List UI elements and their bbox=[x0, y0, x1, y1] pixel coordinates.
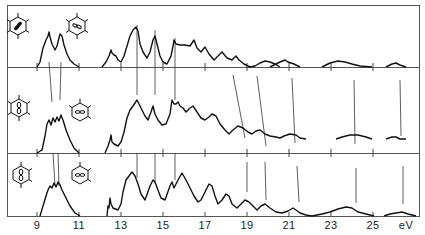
x-tick-label: 23 bbox=[324, 219, 337, 231]
x-tick-label: 9 bbox=[34, 219, 41, 231]
x-axis-unit-label: eV bbox=[399, 219, 413, 231]
x-tick-label: 11 bbox=[73, 219, 85, 231]
spectrum-bottom bbox=[40, 172, 416, 216]
spectrum-top bbox=[37, 27, 406, 67]
x-tick-label: 15 bbox=[156, 219, 169, 231]
benzene-diagonal-orbital-icon bbox=[7, 13, 29, 39]
x-tick-label: 17 bbox=[198, 219, 211, 231]
benzene-horizontal-orbital-icon bbox=[69, 99, 91, 121]
x-tick-label: 13 bbox=[114, 219, 127, 231]
benzene-horizontal-orbital-icon bbox=[72, 162, 91, 184]
benzene-vertical-orbital-icon bbox=[8, 95, 30, 121]
correlation-lines bbox=[49, 25, 403, 204]
benzene-vertical-orbital-icon bbox=[13, 162, 32, 188]
plot-frame bbox=[8, 6, 420, 217]
x-tick-label: 25 bbox=[366, 219, 379, 231]
spectra-curves bbox=[37, 27, 416, 216]
x-tick-label: 21 bbox=[282, 219, 295, 231]
photoelectron-spectra-figure bbox=[0, 0, 425, 235]
benzene-horizontal-orbital-icon bbox=[66, 13, 88, 39]
x-tick-label: 19 bbox=[240, 219, 253, 231]
spectrum-middle bbox=[37, 100, 406, 153]
molecule-icons bbox=[7, 13, 91, 188]
